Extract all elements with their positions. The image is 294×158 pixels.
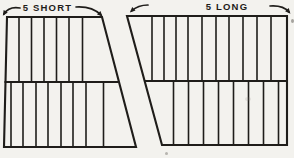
panel-long: 5 LONG [127, 1, 290, 145]
panel-short-label: 5 SHORT [23, 2, 73, 13]
paper-speck [165, 152, 168, 155]
panel-short: 5 SHORT [3, 2, 136, 147]
paper-speck [291, 19, 294, 23]
paper-smudge [245, 97, 251, 101]
short-span-right-arrow-icon [76, 7, 101, 15]
diagram-canvas: 5 SHORT5 LONG [0, 0, 294, 158]
panel-long-label: 5 LONG [206, 1, 249, 12]
scanned-diagram-page: 5 SHORT5 LONG [0, 0, 294, 158]
